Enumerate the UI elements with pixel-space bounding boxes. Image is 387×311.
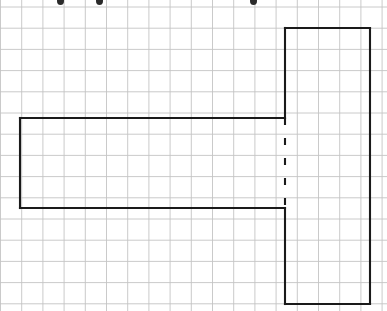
shape-outline-svg bbox=[0, 0, 387, 311]
figure-canvas bbox=[0, 0, 387, 311]
composite-rectilinear-shape bbox=[0, 0, 387, 311]
